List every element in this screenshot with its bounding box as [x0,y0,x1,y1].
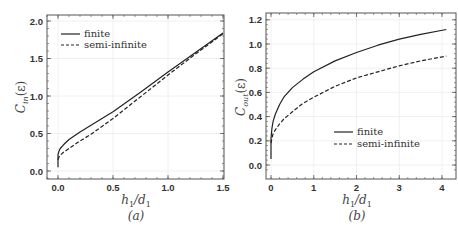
y-axis-label-a: Cin(ε) [14,81,30,114]
y-tick-label: 1.2 [249,14,262,25]
y-tick-label: 0.0 [30,166,43,177]
y-tick-label: 0.5 [30,128,44,139]
figure: 0.00.51.01.50.00.51.01.52.0 finite semi-… [0,0,458,233]
x-tick-label: 2 [354,182,359,193]
caption-a: (a) [128,209,145,223]
x-tick-label: 0.5 [106,182,120,193]
x-tick-label: 4 [439,182,445,193]
panel-a: 0.00.51.01.50.00.51.01.52.0 finite semi-… [14,15,230,223]
legend-label-finite: finite [84,28,110,39]
y-tick-label: 1.0 [249,39,262,50]
panel-b: 012340.00.20.40.60.81.01.2 finite semi-i… [234,13,456,223]
legend-label-finite: finite [357,126,383,137]
y-tick-label: 2.0 [30,16,43,27]
legend-b: finite semi-infinite [334,126,420,149]
series-finite [58,33,223,167]
caption-b: (b) [348,209,365,223]
legend-label-semi-infinite: semi-infinite [84,39,147,50]
series-semi-infinite [58,34,223,160]
y-tick-label: 0.0 [249,160,262,171]
y-axis-label-b: Cout(ε) [234,78,250,116]
x-tick-label: 1.0 [161,182,174,193]
y-tick-label: 0.2 [249,135,262,146]
legend-label-semi-infinite: semi-infinite [357,138,420,149]
y-tick-label: 1.5 [30,53,44,64]
curves-a [58,33,223,167]
x-tick-label: 1.5 [216,182,230,193]
plot-frame-b [266,13,456,179]
y-tick-label: 0.6 [249,87,262,98]
x-tick-label: 1 [311,182,317,193]
x-axis-label-b: h1/d1 [342,193,372,209]
legend-a: finite semi-infinite [61,28,147,50]
x-tick-label: 3 [397,182,402,193]
y-tick-label: 0.4 [249,111,263,122]
x-tick-label: 0.0 [51,182,64,193]
y-tick-label: 1.0 [30,91,43,102]
x-tick-label: 0 [268,182,273,193]
grid-b [266,13,456,179]
y-tick-label: 0.8 [249,63,262,74]
x-axis-label-a: h1/d1 [121,193,151,209]
